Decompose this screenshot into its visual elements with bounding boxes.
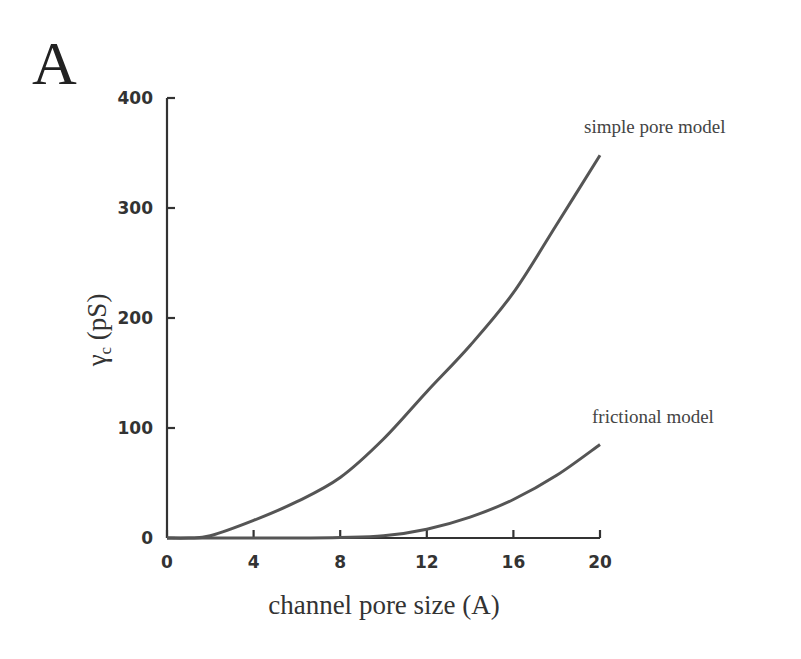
x-tick-label: 20 — [588, 552, 612, 572]
annotation-frictional-model: frictional model — [592, 406, 714, 427]
x-axis-title: channel pore size (A) — [268, 590, 500, 620]
plot-curves — [167, 155, 600, 538]
y-tick-label: 200 — [118, 308, 154, 328]
y-tick-label: 0 — [141, 528, 153, 548]
y-axis-title: γc (pS) — [82, 294, 115, 368]
x-tick-label: 8 — [334, 552, 346, 572]
y-tick-label: 300 — [118, 198, 154, 218]
axes — [167, 98, 600, 538]
x-tick-label: 4 — [248, 552, 260, 572]
x-tick-label: 16 — [502, 552, 526, 572]
x-tick-label: 0 — [161, 552, 173, 572]
x-tick-label: 12 — [415, 552, 439, 572]
y-tick-label: 400 — [118, 88, 154, 108]
curve-simple-pore-model — [167, 155, 600, 538]
y-tick-label: 100 — [118, 418, 154, 438]
chart: A 0100200300400 048121620 γc (pS) channe… — [0, 0, 801, 659]
annotation-simple-pore-model: simple pore model — [584, 116, 725, 137]
panel-label: A — [32, 29, 77, 97]
curve-frictional-model — [167, 445, 600, 539]
